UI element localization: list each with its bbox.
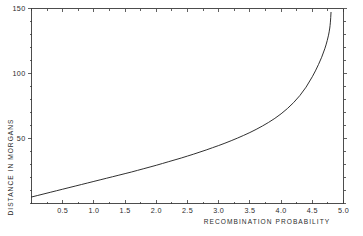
y-tick-label: 100 [12, 69, 25, 78]
x-tick-label: 5.0 [338, 206, 349, 215]
x-axis-title: RECOMBINATION PROBABILITY [204, 218, 331, 225]
chart-figure: 0.51.01.52.02.53.03.54.04.55.0 50100150 … [0, 0, 363, 236]
y-axis-title: DISTANCE IN MORGANS [7, 118, 14, 215]
x-tick-label: 2.5 [182, 206, 193, 215]
plot-frame [32, 9, 344, 204]
data-curve-line [32, 12, 332, 197]
x-tick-label: 4.5 [307, 206, 318, 215]
tick-marks [28, 9, 347, 204]
x-tick-label: 3.0 [213, 206, 224, 215]
x-tick-label: 2.0 [151, 206, 162, 215]
x-tick-label: 1.0 [88, 206, 99, 215]
y-tick-label: 50 [17, 134, 26, 143]
y-axis-tick-labels: 50100150 [12, 4, 25, 143]
plot-canvas: 0.51.01.52.02.53.03.54.04.55.0 50100150 … [0, 0, 363, 236]
y-tick-label: 150 [12, 4, 25, 13]
x-tick-label: 1.5 [120, 206, 131, 215]
x-axis-tick-labels: 0.51.01.52.02.53.03.54.04.55.0 [57, 206, 349, 215]
x-tick-label: 4.0 [276, 206, 287, 215]
x-tick-label: 3.5 [244, 206, 255, 215]
x-tick-label: 0.5 [57, 206, 68, 215]
